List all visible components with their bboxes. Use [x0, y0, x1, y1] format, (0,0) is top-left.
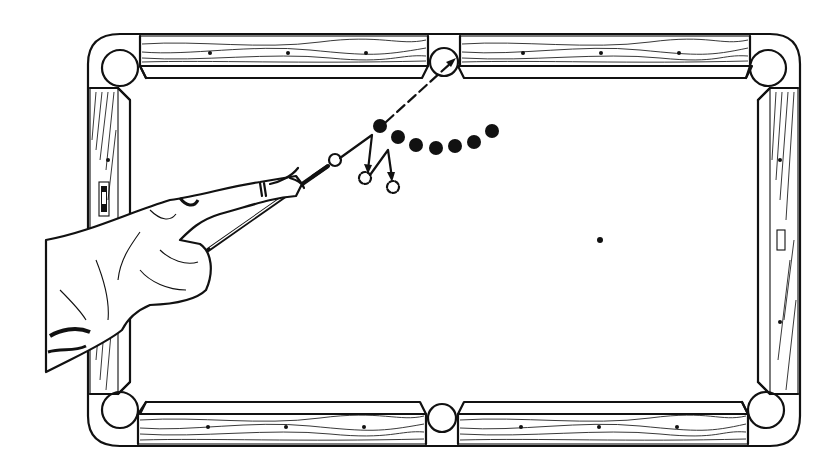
object-ball: [373, 119, 387, 133]
object-balls: [373, 119, 499, 155]
object-ball: [429, 141, 443, 155]
diamond-marker: [597, 425, 601, 429]
diamond-marker: [677, 51, 681, 55]
diamond-marker: [208, 51, 212, 55]
diamond-marker: [521, 51, 525, 55]
ghost-ball: [359, 172, 371, 184]
diamond-marker: [778, 320, 782, 324]
diamond-marker: [778, 158, 782, 162]
cue-ball-paths: [329, 135, 399, 193]
diamond-marker: [519, 425, 523, 429]
diamond-marker: [106, 158, 110, 162]
right-rail: [758, 88, 798, 394]
diamond-marker: [206, 425, 210, 429]
object-ball: [409, 138, 423, 152]
pocket-bottom-left: [90, 382, 146, 444]
top-rail-left: [140, 36, 428, 78]
diamond-marker: [284, 425, 288, 429]
bottom-rail-left: [138, 402, 426, 444]
pool-table-diagram: [0, 0, 840, 472]
foot-spot: [597, 237, 603, 243]
diamond-marker: [675, 425, 679, 429]
object-ball: [467, 135, 481, 149]
pocket-top-right: [746, 36, 798, 100]
bottom-rail-right: [458, 402, 748, 444]
object-ball: [391, 130, 405, 144]
ghost-ball: [387, 181, 399, 193]
table-frame: [88, 34, 800, 446]
diamond-marker: [364, 51, 368, 55]
pocket-bottom-middle: [426, 404, 458, 444]
diamond-marker: [286, 51, 290, 55]
rail-plate: [777, 230, 785, 250]
player-figure: [46, 168, 304, 372]
top-rail-right: [458, 36, 752, 78]
diamond-marker: [362, 425, 366, 429]
aim-line: [386, 58, 456, 122]
object-ball: [485, 124, 499, 138]
cue-ball: [329, 154, 341, 166]
object-ball: [448, 139, 462, 153]
diamond-marker: [599, 51, 603, 55]
